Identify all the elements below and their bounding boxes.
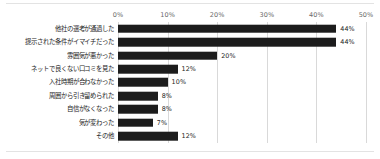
bar: [118, 105, 158, 114]
bar-row: 周囲から引き留められた8%: [0, 89, 380, 102]
category-label: 他社の選考が通過した: [0, 25, 114, 33]
category-label: 周囲から引き留められた: [0, 92, 114, 100]
figure-top-rule: [6, 3, 374, 4]
figure-bottom-rule: [6, 151, 374, 152]
x-axis-tick-label: 40%: [309, 10, 324, 20]
bar-rows: 他社の選考が通過した44%提示された条件がイマイチだった44%雰囲気が悪かった2…: [0, 22, 380, 143]
category-label: 提示された条件がイマイチだった: [0, 38, 114, 46]
bar: [118, 78, 168, 87]
bar: [118, 51, 217, 60]
bar: [118, 24, 336, 33]
category-label: 雰囲気が悪かった: [0, 52, 114, 60]
bar-row: その他12%: [0, 130, 380, 143]
category-label: ネットで良くない口コミを見た: [0, 65, 114, 73]
bar: [118, 132, 178, 141]
bar-row: 入社時期が合わなかった10%: [0, 76, 380, 89]
bar-row: ネットで良くない口コミを見た12%: [0, 62, 380, 75]
bar: [118, 65, 178, 74]
bar-row: 提示された条件がイマイチだった44%: [0, 35, 380, 48]
bar: [118, 119, 153, 128]
bar: [118, 92, 158, 101]
bar-row: 自信がなくなった8%: [0, 103, 380, 116]
bar-row: 雰囲気が悪かった20%: [0, 49, 380, 62]
bar-value-label: 8%: [162, 105, 172, 113]
x-axis-tick-label: 50%: [359, 10, 374, 20]
bar-value-label: 44%: [340, 25, 355, 33]
category-label: その他: [0, 132, 114, 140]
bar-row: 他社の選考が通過した44%: [0, 22, 380, 35]
bar-value-label: 44%: [340, 38, 355, 46]
bar-value-label: 20%: [221, 52, 236, 60]
category-label: 自信がなくなった: [0, 105, 114, 113]
bar-value-label: 12%: [182, 132, 197, 140]
bar-value-label: 12%: [182, 65, 197, 73]
category-label: 気が変わった: [0, 119, 114, 127]
x-axis-tick-label: 20%: [210, 10, 225, 20]
category-label: 入社時期が合わなかった: [0, 78, 114, 86]
bar-value-label: 8%: [162, 92, 172, 100]
x-axis-tick-label: 30%: [259, 10, 274, 20]
bar-value-label: 7%: [157, 119, 167, 127]
x-axis-tick-label: 0%: [113, 10, 124, 20]
bar-value-label: 10%: [172, 78, 187, 86]
x-axis-tick-labels: 0%10%20%30%40%50%: [118, 10, 366, 21]
bar-chart: 0%10%20%30%40%50% 他社の選考が通過した44%提示された条件がイ…: [0, 0, 380, 159]
x-axis-tick-label: 10%: [160, 10, 175, 20]
bar: [118, 38, 336, 47]
bar-row: 気が変わった7%: [0, 116, 380, 129]
